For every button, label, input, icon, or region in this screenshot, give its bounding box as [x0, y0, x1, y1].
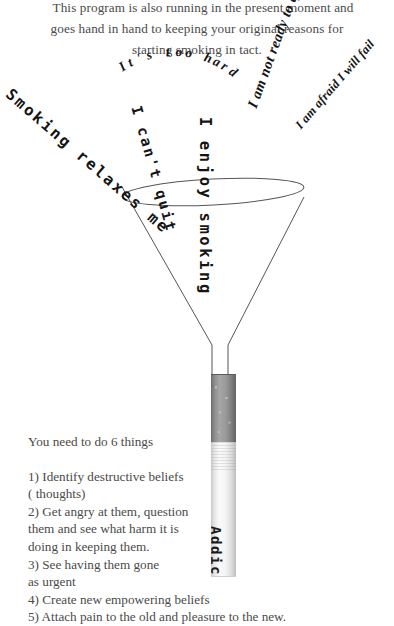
instruction-step-2-cont-b: doing in keeping them. — [28, 538, 268, 556]
arc-letter: o — [176, 44, 183, 60]
instruction-step-3-cont: as urgent — [28, 573, 268, 591]
intro-line-2: goes hand in hand to keeping your origin… — [0, 18, 394, 39]
instruction-step-1-cont: ( thoughts) — [28, 485, 268, 503]
funnel-cone-right — [228, 197, 304, 345]
instruction-step-1: 1) Identify destructive beliefs — [28, 468, 268, 486]
instruction-step-3: 3) See having them gone — [28, 556, 268, 574]
instruction-step-4: 4) Create new empowering beliefs — [28, 591, 268, 609]
funnel-neck — [212, 345, 228, 377]
intro-line-1: This program is also running in the pres… — [12, 0, 394, 18]
arc-letter: d — [226, 64, 241, 81]
belief-label-enjoy-smoking: I enjoy smoking — [196, 117, 214, 296]
instruction-step-2: 2) Get angry at them, question — [28, 503, 268, 521]
instructions-heading: You need to do 6 things — [28, 433, 268, 451]
instruction-step-2-cont-a: them and see what harm it is — [28, 520, 268, 538]
instruction-step-5: 5) Attach pain to the old and pleasure t… — [28, 608, 388, 626]
instructions-block: You need to do 6 things 1) Identify dest… — [28, 433, 268, 626]
